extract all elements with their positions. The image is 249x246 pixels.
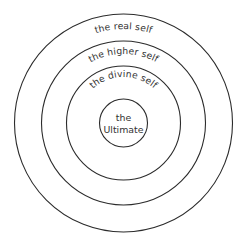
ring-outer-label: the real self <box>93 20 154 35</box>
ring-third-circle <box>67 66 181 180</box>
ring-core-label-line-2: Ultimate <box>103 124 143 135</box>
concentric-circles-diagram: the real self the higher self the divine… <box>0 0 249 246</box>
ring-core-circle <box>100 99 148 147</box>
ring-second-label: the higher self <box>86 45 161 65</box>
diagram-canvas: the real self the higher self the divine… <box>0 0 249 246</box>
ring-third-label: the divine self <box>87 68 161 91</box>
ring-core-label-line-1: the <box>116 112 132 123</box>
